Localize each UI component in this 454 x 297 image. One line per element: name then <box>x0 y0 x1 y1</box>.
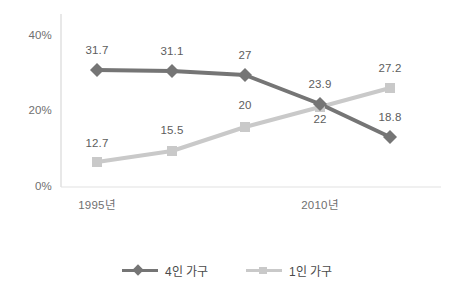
marker-one-person-0 <box>92 157 102 167</box>
data-label-one-person-1: 15.5 <box>152 124 192 136</box>
data-label-one-person-4: 27.2 <box>370 62 410 74</box>
data-label-one-person-3: 22 <box>300 113 340 125</box>
data-label-four-person-3: 23.9 <box>300 78 340 90</box>
x-axis-tick-2010: 2010년 <box>280 196 360 212</box>
marker-four-person-0 <box>90 63 104 77</box>
y-axis-tick-40: 40% <box>8 29 52 41</box>
data-label-four-person-2: 27 <box>225 49 265 61</box>
data-label-one-person-2: 20 <box>225 99 265 111</box>
chart-plot-area <box>0 0 454 297</box>
marker-four-person-4 <box>383 130 397 144</box>
marker-one-person-4 <box>385 83 395 93</box>
legend-marker-square-icon <box>246 264 282 276</box>
legend-marker-diamond-icon <box>122 264 158 276</box>
data-label-four-person-4: 18.8 <box>370 111 410 123</box>
x-axis-tick-1995: 1995년 <box>57 196 137 212</box>
y-axis-tick-0: 0% <box>8 180 52 192</box>
data-label-four-person-1: 31.1 <box>152 45 192 57</box>
marker-one-person-1 <box>167 146 177 156</box>
legend-item-one-person[interactable]: 1인 가구 <box>246 262 332 279</box>
chart-container: 40% 20% 0% 1995년 2010년 31.7 31.1 27 23.9… <box>0 0 454 297</box>
legend-label-one-person: 1인 가구 <box>289 262 332 279</box>
marker-one-person-2 <box>240 122 250 132</box>
marker-four-person-2 <box>238 68 252 82</box>
legend-label-four-person: 4인 가구 <box>165 262 208 279</box>
marker-four-person-1 <box>165 64 179 78</box>
legend-item-four-person[interactable]: 4인 가구 <box>122 262 208 279</box>
y-axis-tick-20: 20% <box>8 104 52 116</box>
chart-legend: 4인 가구 1인 가구 <box>0 258 454 282</box>
data-label-four-person-0: 31.7 <box>77 44 117 56</box>
data-label-one-person-0: 12.7 <box>77 137 117 149</box>
